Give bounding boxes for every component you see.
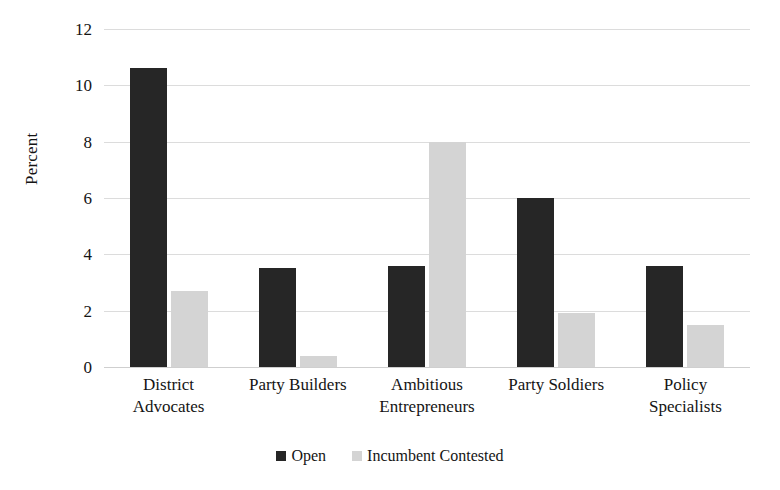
- gridline: [104, 367, 750, 368]
- plot-area: [104, 29, 750, 367]
- bar-group: [362, 29, 491, 367]
- y-tick-label: 2: [84, 302, 93, 319]
- x-tick-label-line: Policy: [623, 374, 748, 396]
- legend-swatch-icon: [276, 451, 286, 461]
- bar-incumbent-contested[interactable]: [300, 356, 337, 367]
- y-tick-label: 6: [84, 190, 93, 207]
- legend-label: Open: [291, 447, 326, 465]
- x-tick-label-line: Advocates: [106, 396, 231, 418]
- bar-group: [104, 29, 233, 367]
- x-tick-label: Party Builders: [233, 374, 362, 436]
- bar-group: [492, 29, 621, 367]
- bar-open[interactable]: [517, 198, 554, 367]
- x-tick-label-line: Entrepreneurs: [364, 396, 489, 418]
- x-tick-label-line: District: [106, 374, 231, 396]
- bar-open[interactable]: [388, 266, 425, 367]
- bar-incumbent-contested[interactable]: [687, 325, 724, 367]
- x-tick-label-line: Party Soldiers: [494, 374, 619, 396]
- legend-swatch-icon: [352, 451, 362, 461]
- legend-label: Incumbent Contested: [367, 447, 503, 465]
- x-tick-label: AmbitiousEntrepreneurs: [362, 374, 491, 436]
- chart-legend: OpenIncumbent Contested: [0, 447, 780, 465]
- y-tick-label: 0: [84, 359, 93, 376]
- y-tick-label: 4: [84, 246, 93, 263]
- x-tick-label-line: Ambitious: [364, 374, 489, 396]
- bar-incumbent-contested[interactable]: [429, 142, 466, 367]
- x-tick-label: Party Soldiers: [492, 374, 621, 436]
- y-axis-title: Percent: [22, 133, 42, 185]
- y-axis-tick-labels: 024681012: [56, 0, 100, 490]
- bar-open[interactable]: [259, 268, 296, 367]
- y-tick-label: 8: [84, 133, 93, 150]
- legend-item[interactable]: Open: [276, 447, 326, 465]
- bar-group: [621, 29, 750, 367]
- x-tick-label: DistrictAdvocates: [104, 374, 233, 436]
- x-tick-label-line: Party Builders: [235, 374, 360, 396]
- bar-group: [233, 29, 362, 367]
- x-tick-label: PolicySpecialists: [621, 374, 750, 436]
- bar-incumbent-contested[interactable]: [558, 313, 595, 367]
- x-tick-label-line: Specialists: [623, 396, 748, 418]
- legend-item[interactable]: Incumbent Contested: [352, 447, 503, 465]
- bar-open[interactable]: [130, 68, 167, 367]
- bar-groups: [104, 29, 750, 367]
- x-axis-category-labels: DistrictAdvocatesParty BuildersAmbitious…: [104, 374, 750, 436]
- bar-chart: Percent 024681012 DistrictAdvocatesParty…: [0, 0, 780, 490]
- bar-open[interactable]: [646, 266, 683, 367]
- y-tick-label: 12: [75, 21, 92, 38]
- bar-incumbent-contested[interactable]: [171, 291, 208, 367]
- y-tick-label: 10: [75, 77, 92, 94]
